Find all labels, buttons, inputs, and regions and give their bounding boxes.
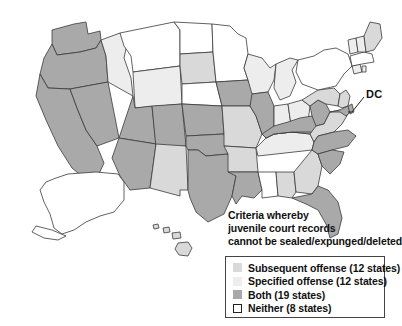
legend-label-both: Both (19 states): [248, 289, 325, 301]
state-MS: [258, 172, 278, 198]
state-AK: [40, 172, 124, 234]
state-AR: [224, 146, 258, 172]
state-NE: [182, 82, 222, 106]
caption-line-2: juvenile court records: [228, 222, 388, 235]
legend-item-both: Both (19 states): [233, 288, 384, 302]
state-ME: [364, 22, 382, 52]
caption-line-1: Criteria whereby: [228, 209, 388, 222]
dc-label: DC: [366, 89, 383, 100]
legend-item-neither: Neither (8 states): [233, 302, 384, 316]
dc-leader-line: [352, 97, 364, 112]
state-KS: [182, 104, 224, 136]
state-NY: [296, 48, 352, 90]
state-MT: [120, 22, 180, 72]
state-IA: [216, 80, 254, 106]
legend-swatch-specified-offense: [233, 277, 242, 286]
state-RI: [362, 66, 366, 72]
state-AL: [276, 172, 296, 198]
legend-swatch-subsequent-offense: [233, 263, 242, 272]
legend-label-neither: Neither (8 states): [248, 302, 331, 314]
caption-line-3: cannot be sealed/expunged/deleted: [228, 235, 388, 248]
state-MI: [274, 58, 298, 100]
state-HI-oahu: [163, 227, 170, 233]
legend-swatch-neither: [233, 304, 242, 313]
state-SD: [180, 52, 216, 84]
state-NJ: [338, 90, 350, 108]
state-ND: [174, 22, 213, 54]
state-HI-hawaii: [175, 242, 192, 256]
map-legend: Subsequent offense (12 states) Specified…: [225, 256, 385, 318]
legend-item-specified-offense: Specified offense (12 states): [233, 275, 384, 289]
state-MN: [212, 24, 248, 82]
legend-label-subsequent-offense: Subsequent offense (12 states): [248, 262, 400, 274]
map-caption: Criteria whereby juvenile court records …: [228, 209, 388, 249]
state-SC: [318, 150, 344, 174]
legend-swatch-both: [233, 290, 242, 299]
legend-label-specified-offense: Specified offense (12 states): [248, 275, 387, 287]
state-HI-kauai: [153, 224, 159, 229]
state-NM: [150, 144, 188, 196]
state-CO: [152, 104, 186, 148]
legend-item-subsequent-offense: Subsequent offense (12 states): [233, 261, 384, 275]
state-HI-maui: [172, 232, 181, 239]
state-WY: [133, 66, 182, 108]
state-MA: [350, 52, 374, 66]
